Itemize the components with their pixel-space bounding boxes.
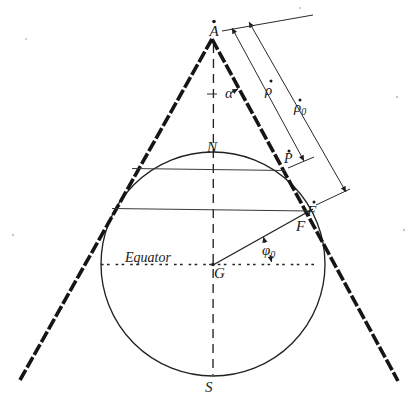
phi0-label-base: φ: [262, 242, 270, 258]
rho0-label-sub: 0: [301, 106, 306, 117]
p-point-label: P: [283, 151, 293, 166]
phi0-label-sub: 0: [270, 249, 275, 260]
paper-speck: [396, 96, 398, 98]
paper-speck: [299, 7, 301, 9]
alpha-arrow: [232, 89, 238, 92]
lower-parallel-chord: [112, 209, 310, 212]
equator-label: Equator: [124, 250, 171, 265]
center-label: G: [214, 265, 225, 281]
north-pole-label: N: [206, 139, 218, 155]
apex-label: A: [208, 23, 219, 39]
figure-canvas: A α ρ ρ0 P F F φ0 N S G Equator: [0, 0, 420, 409]
south-pole-label: S: [205, 379, 213, 395]
alpha-label: α: [225, 85, 234, 101]
extension-line-f: [316, 189, 350, 205]
rho-label: ρ: [264, 82, 272, 98]
paper-speck: [25, 38, 27, 40]
paper-speck: [12, 234, 14, 236]
conic-projection-figure: A α ρ ρ0 P F F φ0 N S G Equator: [0, 0, 420, 409]
rho0-label-base: ρ: [293, 99, 301, 115]
upper-parallel-chord: [132, 169, 285, 171]
extension-line-apex: [222, 15, 313, 31]
rho0-label: ρ0: [293, 99, 306, 117]
f-inner-label: F: [295, 218, 306, 234]
phi0-label: φ0: [262, 242, 275, 260]
paper-speck: [403, 229, 405, 231]
f-outer-label: F: [306, 203, 317, 219]
